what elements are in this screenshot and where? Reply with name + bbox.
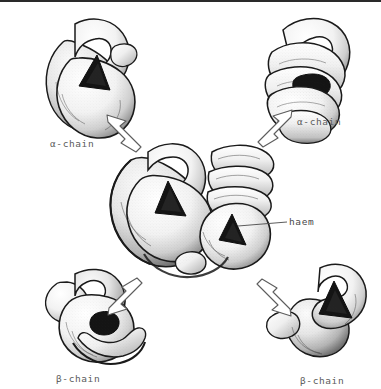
- central-tetramer: [110, 144, 273, 277]
- label-alpha-chain-top-right: α-chain: [297, 116, 341, 127]
- label-beta-chain-bottom-right: β-chain: [300, 375, 344, 386]
- label-beta-chain-bottom-left: β-chain: [56, 373, 100, 384]
- label-alpha-chain-top-left: α-chain: [50, 138, 94, 149]
- label-haem: haem: [289, 216, 314, 227]
- figure-canvas: [0, 2, 381, 389]
- hemoglobin-figure: α-chain α-chain β-chain β-chain haem: [0, 0, 381, 389]
- arrow-to-beta-bottom-right: [257, 279, 291, 316]
